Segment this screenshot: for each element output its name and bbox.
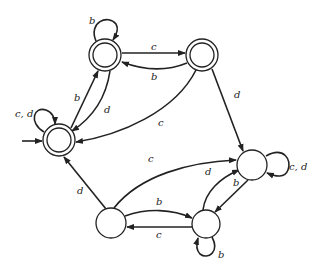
- edge-f-self: [197, 237, 215, 256]
- state-d: [237, 150, 267, 180]
- state-e: [96, 208, 126, 238]
- label-f-self: b: [218, 249, 224, 260]
- label-c-self: c, d: [15, 108, 33, 119]
- label-b-to-c: c: [158, 117, 164, 128]
- edge-b-to-d: [212, 69, 243, 151]
- label-d-self: c, d: [289, 161, 307, 172]
- state-diagram: b c b b d c, d c d c, d d c b c d b b: [0, 0, 317, 273]
- edge-e-to-f: [125, 211, 192, 218]
- state-f: [192, 210, 220, 238]
- state-a-accepting: [89, 39, 121, 71]
- label-e-to-d: c: [148, 153, 154, 164]
- state-c-start-accepting: [43, 124, 75, 156]
- state-b-accepting: [186, 39, 218, 71]
- label-e-to-f: b: [156, 196, 162, 207]
- label-a-to-b: c: [151, 41, 157, 52]
- label-b-to-d: d: [234, 89, 240, 100]
- label-c-to-a: b: [74, 92, 80, 103]
- edge-d-to-f: [215, 180, 248, 212]
- label-a-to-c: d: [104, 104, 110, 115]
- label-f-to-d: d: [205, 166, 211, 177]
- label-d-to-f: b: [233, 177, 239, 188]
- label-f-to-e: c: [156, 229, 162, 240]
- edge-a-self: [94, 20, 117, 41]
- edge-d-self: [266, 153, 289, 176]
- edge-e-to-c: [64, 157, 106, 209]
- edge-b-to-a: [122, 62, 187, 69]
- label-e-to-c: d: [77, 185, 83, 196]
- label-b-to-a: b: [151, 71, 157, 82]
- label-a-self: b: [89, 15, 95, 26]
